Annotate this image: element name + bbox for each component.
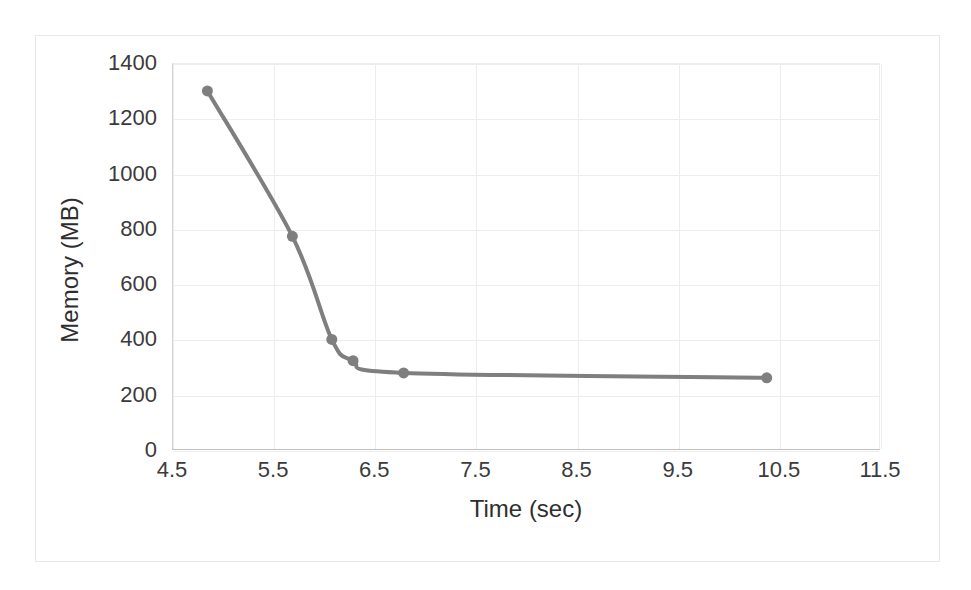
gridline-horizontal [173, 64, 879, 65]
x-axis-tick-label: 4.5 [157, 459, 188, 481]
gridline-vertical [780, 64, 781, 449]
gridline-horizontal [173, 119, 879, 120]
gridline-vertical [173, 64, 174, 449]
y-axis-tick-label: 200 [120, 384, 157, 406]
y-axis-tick-label: 800 [120, 218, 157, 240]
x-axis-tick-label: 10.5 [757, 459, 800, 481]
chart-page: 0200400600800100012001400 4.55.56.57.58.… [0, 0, 971, 590]
y-axis-tick-label: 600 [120, 273, 157, 295]
gridline-vertical [274, 64, 275, 449]
gridline-vertical [679, 64, 680, 449]
gridline-vertical [476, 64, 477, 449]
y-axis-tick-label: 400 [120, 328, 157, 350]
x-axis-tick-label: 8.5 [561, 459, 592, 481]
gridline-horizontal [173, 396, 879, 397]
x-axis-tick-label: 11.5 [859, 459, 900, 481]
y-axis-tick-labels: 0200400600800100012001400 [95, 0, 157, 590]
plot-area [172, 63, 880, 450]
gridline-horizontal [173, 175, 879, 176]
gridline-horizontal [173, 340, 879, 341]
gridline-horizontal [173, 285, 879, 286]
y-axis-tick-label: 1000 [108, 163, 157, 185]
x-axis-tick-label: 7.5 [460, 459, 491, 481]
x-axis-tick-label: 5.5 [258, 459, 289, 481]
y-axis-tick-label: 1200 [108, 107, 157, 129]
gridline-horizontal [173, 230, 879, 231]
gridline-horizontal [173, 451, 879, 452]
x-axis-tick-label: 6.5 [359, 459, 390, 481]
x-axis-tick-label: 9.5 [662, 459, 693, 481]
y-axis-title: Memory (MB) [56, 140, 84, 400]
gridline-vertical [578, 64, 579, 449]
gridline-vertical [881, 64, 882, 449]
y-axis-tick-label: 0 [145, 439, 157, 461]
gridline-vertical [375, 64, 376, 449]
y-axis-tick-label: 1400 [108, 52, 157, 74]
x-axis-title: Time (sec) [172, 495, 880, 523]
